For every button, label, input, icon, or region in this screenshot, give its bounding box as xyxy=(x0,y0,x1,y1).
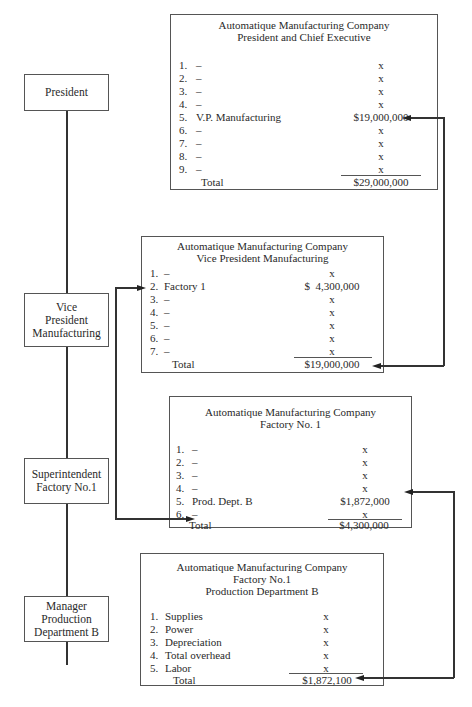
statement-row: 4.–x xyxy=(171,98,437,110)
role-label: President xyxy=(32,314,100,327)
arrowhead-icon xyxy=(355,675,364,681)
statement-row: 4.Total overheadx xyxy=(141,649,383,661)
role-label: Manager xyxy=(34,600,99,613)
statement-header: President and Chief Executive xyxy=(171,31,437,43)
statement-header: Automatique Manufacturing Company xyxy=(142,240,383,252)
statement-header: Automatique Manufacturing Company xyxy=(171,19,437,31)
statement-header: Factory No. 1 xyxy=(170,418,411,430)
role-label: Superintendent xyxy=(32,468,102,481)
total-value: $4,300,000 xyxy=(329,519,399,531)
role-label: President xyxy=(45,86,88,99)
statement-row: 3.–x xyxy=(170,469,411,481)
connector-segment xyxy=(115,287,138,289)
statement-row: 5.V.P. Manufacturing$19,000,000 xyxy=(171,111,437,123)
statement-header: Automatique Manufacturing Company xyxy=(141,561,383,573)
connector-segment xyxy=(412,491,454,493)
role-box-manager: Manager Production Department B xyxy=(24,596,109,642)
connector-segment xyxy=(115,518,187,520)
statement-row: 7.–x xyxy=(142,345,383,357)
statement-row: 3.Depreciationx xyxy=(141,636,383,648)
statement-row: 5.Prod. Dept. B$1,872,000 xyxy=(170,495,411,507)
role-label: Production xyxy=(34,613,99,626)
arrowhead-icon xyxy=(372,363,381,369)
connector-segment xyxy=(410,117,444,119)
connector-dept-to-factory xyxy=(453,491,455,678)
role-box-vice-president: Vice President Manufacturing xyxy=(24,293,109,347)
statement-header: Vice President Manufacturing xyxy=(142,252,383,264)
arrowhead-icon xyxy=(404,489,413,495)
arrowhead-icon xyxy=(137,285,146,291)
connector-vp-to-president xyxy=(443,117,445,366)
statement-production-dept-b: Automatique Manufacturing Company Factor… xyxy=(140,553,384,686)
statement-header: Automatique Manufacturing Company xyxy=(170,406,411,418)
connector-segment xyxy=(380,365,444,367)
statement-row: 1.Suppliesx xyxy=(141,610,383,622)
role-label: Manufacturing xyxy=(32,327,100,340)
statement-header: Production Department B xyxy=(141,585,383,597)
statement-president: Automatique Manufacturing Company Presid… xyxy=(170,14,438,190)
statement-total-row: Total$29,000,000 xyxy=(171,176,437,188)
statement-row: 6.–x xyxy=(171,124,437,136)
connector-factory-to-vp xyxy=(115,287,117,519)
statement-row: 6.–x xyxy=(142,332,383,344)
statement-row: 4.–x xyxy=(170,482,411,494)
statement-row: 1.–x xyxy=(170,443,411,455)
statement-factory: Automatique Manufacturing Company Factor… xyxy=(169,396,412,528)
statement-row: 2.Powerx xyxy=(141,623,383,635)
statement-total-row: Total$1,872,100 xyxy=(141,674,383,686)
statement-row: 1.–x xyxy=(171,59,437,71)
statement-row: 7.–x xyxy=(171,137,437,149)
statement-row: 2.–x xyxy=(171,72,437,84)
statement-vice-president: Automatique Manufacturing Company Vice P… xyxy=(141,236,384,373)
statement-row: 4.–x xyxy=(142,306,383,318)
connector-segment xyxy=(363,677,454,679)
statement-row: 8.–x xyxy=(171,150,437,162)
statement-row: 2.–x xyxy=(170,456,411,468)
statement-row: 5.–x xyxy=(142,319,383,331)
statement-row: 2.Factory 1$ 4,300,000 xyxy=(142,280,383,292)
statement-row: 1.–x xyxy=(142,267,383,279)
role-box-president: President xyxy=(24,74,109,111)
statement-row: 3.–x xyxy=(142,293,383,305)
org-connector-line xyxy=(66,110,68,665)
role-label: Department B xyxy=(34,626,99,639)
role-label: Vice xyxy=(32,301,100,314)
arrowhead-icon xyxy=(402,115,411,121)
role-box-superintendent: Superintendent Factory No.1 xyxy=(24,458,109,504)
statement-row: 9.–x xyxy=(171,163,437,175)
arrowhead-icon xyxy=(186,516,195,522)
role-label: Factory No.1 xyxy=(32,481,102,494)
statement-row: 3.–x xyxy=(171,85,437,97)
statement-factory-total-row: Total $4,300,000 xyxy=(169,519,412,531)
statement-header: Factory No.1 xyxy=(141,573,383,585)
statement-total-row: Total$19,000,000 xyxy=(142,358,383,370)
